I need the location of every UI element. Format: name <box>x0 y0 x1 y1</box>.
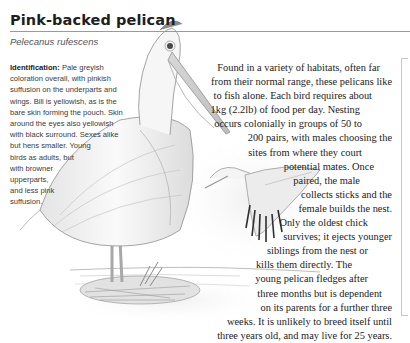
description-line: sites from where they court <box>192 146 392 160</box>
description-line: to fish alone. Each bird requires about <box>192 89 392 103</box>
description-line: from their normal range, these pelicans … <box>192 75 392 89</box>
description-line: 200 pairs, with males choosing the <box>192 131 392 145</box>
nest-drawing <box>80 262 200 304</box>
identification-line: with black surround. Sexes alike <box>10 129 142 140</box>
description-line: collects sticks and the <box>192 188 392 202</box>
identification-line: suffusion on the underparts and <box>10 84 142 95</box>
description-line: paired, the male <box>192 174 392 188</box>
identification-line: upperparts, <box>10 174 142 185</box>
description-line: on its parents for a further three <box>192 301 392 315</box>
page-edge-bracket <box>401 58 408 316</box>
identification-label: Identification: <box>10 63 60 72</box>
identification-line: with browner <box>10 163 142 174</box>
identification-line: bare skin forming the pouch. Skin <box>10 107 142 118</box>
identification-line: and less pink <box>10 185 142 196</box>
description-line: young pelican fledges after <box>192 272 392 286</box>
identification-text: Identification: Pale greyish coloration … <box>10 62 142 208</box>
description-line: female builds the nest. <box>192 202 392 216</box>
identification-line: Identification: Pale greyish <box>10 62 142 73</box>
identification-line: around the eyes also yellowish <box>10 118 142 129</box>
scientific-name: Pelecanus rufescens <box>10 36 98 47</box>
description-line: 1kg (2.2lb) of food per day. Nesting <box>192 103 392 117</box>
identification-line: but hens smaller. Young <box>10 140 142 151</box>
description-line: kills them directly. The <box>192 258 392 272</box>
description-line: Found in a variety of habitats, often fa… <box>192 61 392 75</box>
title-rule <box>10 31 410 32</box>
species-title: Pink-backed pelican <box>10 12 176 28</box>
description-line: three years old, and may live for 25 yea… <box>192 329 392 343</box>
description-line: potential mates. Once <box>192 160 392 174</box>
description-line: siblings from the nest or <box>192 244 392 258</box>
description-line: Only the oldest chick <box>192 216 392 230</box>
description-line: survives; it ejects younger <box>192 230 392 244</box>
description-text: Found in a variety of habitats, often fa… <box>192 61 392 343</box>
identification-line: suffusion. <box>10 196 142 207</box>
identification-line: coloration overall, with pinkish <box>10 73 142 84</box>
description-line: weeks. It is unlikely to breed itself un… <box>192 315 392 329</box>
identification-line: wings. Bill is yellowish, as is the <box>10 96 142 107</box>
description-line: occurs colonially in groups of 50 to <box>192 117 392 131</box>
identification-line: birds as adults, but <box>10 152 142 163</box>
description-line: three months but is dependent <box>192 287 392 301</box>
